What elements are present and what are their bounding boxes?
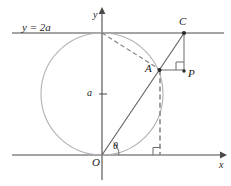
point-p-label: P [188, 68, 195, 79]
ray-O-to-C [102, 33, 185, 156]
origin-label: O [92, 157, 100, 168]
radius-tick-label: a [87, 88, 92, 98]
x-axis-label: x [219, 160, 223, 170]
y-axis-arrowhead [99, 7, 106, 14]
point-c-label: C [179, 16, 186, 27]
point-marker-A [158, 68, 162, 72]
point-a-label: A [145, 63, 152, 74]
line-equation-label: y = 2a [22, 22, 51, 33]
geometry-figure: y = 2a y x O A C P a θ [0, 0, 231, 186]
angle-theta-label: θ [113, 141, 118, 151]
point-marker-P [182, 69, 185, 72]
y-axis-label: y [93, 10, 97, 20]
x-axis-arrowhead [220, 152, 227, 159]
right-angle-at-P [176, 62, 184, 70]
point-marker-C [182, 31, 186, 35]
